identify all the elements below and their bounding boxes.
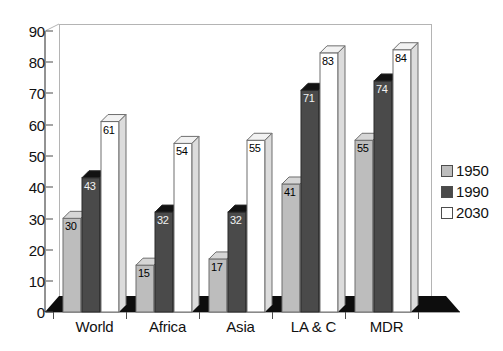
legend-swatch-1990 xyxy=(441,186,453,198)
legend-label-1990: 1990 xyxy=(456,184,489,199)
x-tick-mark xyxy=(272,312,273,319)
legend-item-2030[interactable]: 2030 xyxy=(441,202,503,223)
legend-label-2030: 2030 xyxy=(456,205,489,220)
x-tick-label: Africa xyxy=(149,318,186,335)
x-tick-label: Asia xyxy=(226,318,254,335)
x-tick-mark xyxy=(345,312,346,319)
legend-item-1950[interactable]: 1950 xyxy=(441,160,503,181)
x-tick-mark xyxy=(199,312,200,319)
legend-swatch-1950 xyxy=(441,165,453,177)
x-tick-label: World xyxy=(76,318,114,335)
x-tick-label: MDR xyxy=(370,318,404,335)
chart-legend: 1950 1990 2030 xyxy=(441,160,503,223)
x-axis: WorldAfricaAsiaLA & CMDR xyxy=(0,0,503,351)
x-tick-mark xyxy=(418,312,419,319)
x-tick-mark xyxy=(53,312,54,319)
legend-swatch-2030 xyxy=(441,207,453,219)
x-tick-mark xyxy=(126,312,127,319)
legend-item-1990[interactable]: 1990 xyxy=(441,181,503,202)
x-tick-label: LA & C xyxy=(291,318,337,335)
legend-label-1950: 1950 xyxy=(456,163,489,178)
bar-chart: 90 80 70 60 50 40 30 20 10 0 30436115325… xyxy=(0,0,503,351)
